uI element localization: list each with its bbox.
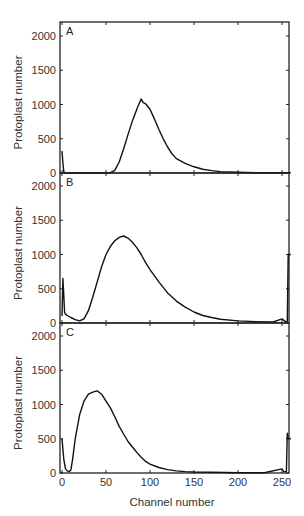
x-tick-label: 250 xyxy=(273,476,291,488)
plot-frame xyxy=(60,22,289,173)
histogram-line-a xyxy=(62,99,291,173)
y-tick-label: 0 xyxy=(50,467,56,479)
plot-frame xyxy=(60,173,289,323)
plot-frame xyxy=(60,323,289,473)
histogram-figure: 0500100015002000Protoplast numberA050010… xyxy=(0,0,304,516)
y-tick-label: 1500 xyxy=(32,64,56,76)
y-tick-label: 2000 xyxy=(32,30,56,42)
y-tick-label: 1000 xyxy=(32,249,56,261)
panel-letter: B xyxy=(66,176,73,188)
y-tick-label: 1000 xyxy=(32,99,56,111)
x-tick-label: 0 xyxy=(59,476,65,488)
histogram-line-b xyxy=(62,236,291,322)
panel-a: 0500100015002000Protoplast numberA xyxy=(12,22,291,179)
y-tick-label: 2000 xyxy=(32,330,56,342)
y-tick-label: 2000 xyxy=(32,180,56,192)
y-tick-label: 1500 xyxy=(32,364,56,376)
y-tick-label: 1500 xyxy=(32,214,56,226)
y-tick-label: 1000 xyxy=(32,399,56,411)
y-tick-label: 0 xyxy=(50,167,56,179)
y-axis-title: Protoplast number xyxy=(12,356,24,450)
x-tick-label: 100 xyxy=(141,476,159,488)
x-tick-label: 200 xyxy=(229,476,247,488)
y-tick-label: 500 xyxy=(38,283,56,295)
panel-c: 0500100015002000050100150200250Protoplas… xyxy=(12,323,291,488)
y-axis-title: Protoplast number xyxy=(12,206,24,300)
y-tick-label: 500 xyxy=(38,433,56,445)
x-tick-label: 150 xyxy=(185,476,203,488)
x-tick-label: 50 xyxy=(100,476,112,488)
y-tick-label: 500 xyxy=(38,133,56,145)
panel-letter: A xyxy=(66,25,74,37)
panel-b: 0500100015002000Protoplast numberB xyxy=(12,173,291,329)
x-axis-title: Channel number xyxy=(129,496,214,508)
y-tick-label: 0 xyxy=(50,317,56,329)
y-axis-title: Protoplast number xyxy=(12,55,24,149)
histogram-line-c xyxy=(62,391,291,473)
panel-letter: C xyxy=(66,326,74,338)
